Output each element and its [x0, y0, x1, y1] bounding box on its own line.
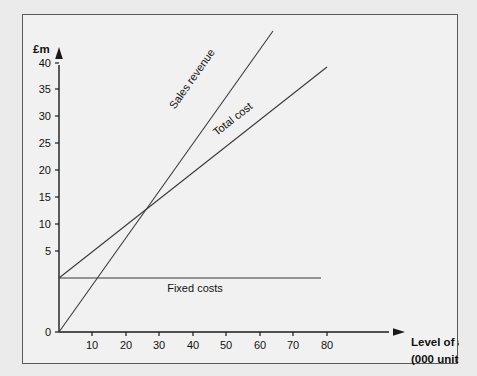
x-tick-label-60: 60 — [254, 339, 266, 351]
x-tick-label-40: 40 — [187, 339, 199, 351]
x-tick-label-20: 20 — [120, 339, 132, 351]
y-tick-label-10: 10 — [39, 218, 51, 230]
y-tick-label-20: 20 — [39, 164, 51, 176]
total-cost-label: Total cost — [211, 100, 255, 138]
y-tick-label-40: 40 — [39, 57, 51, 69]
y-tick-labels: 40 35 30 25 20 15 10 5 0 — [39, 57, 51, 338]
x-tick-label-30: 30 — [153, 339, 165, 351]
y-tick-label-35: 35 — [39, 83, 51, 95]
y-tick-label-25: 25 — [39, 137, 51, 149]
x-axis-title-line2: (000 units) — [411, 353, 459, 365]
total-cost-line — [59, 67, 327, 278]
y-axis — [55, 47, 63, 332]
y-axis-arrowhead — [55, 47, 63, 59]
x-axis-title-line1: Level of activity — [411, 336, 459, 348]
x-axis — [59, 328, 405, 336]
x-axis-arrowhead — [393, 328, 405, 336]
x-tick-labels: 10 20 30 40 50 60 70 80 — [86, 339, 333, 351]
y-axis-unit-label: £m — [33, 43, 50, 55]
sales-revenue-line — [59, 31, 273, 332]
x-tick-label-80: 80 — [321, 339, 333, 351]
fixed-costs-label: Fixed costs — [167, 282, 223, 294]
x-tick-label-10: 10 — [86, 339, 98, 351]
y-tick-label-5: 5 — [45, 245, 51, 257]
y-tick-label-0: 0 — [45, 326, 51, 338]
y-tick-label-15: 15 — [39, 191, 51, 203]
break-even-chart: £m 40 35 30 25 20 15 10 5 0 — [23, 15, 459, 365]
x-tick-label-70: 70 — [287, 339, 299, 351]
chart-frame: £m 40 35 30 25 20 15 10 5 0 — [22, 14, 458, 364]
y-tick-label-30: 30 — [39, 110, 51, 122]
x-tick-label-50: 50 — [220, 339, 232, 351]
sales-revenue-label: Sales revenue — [166, 47, 217, 111]
